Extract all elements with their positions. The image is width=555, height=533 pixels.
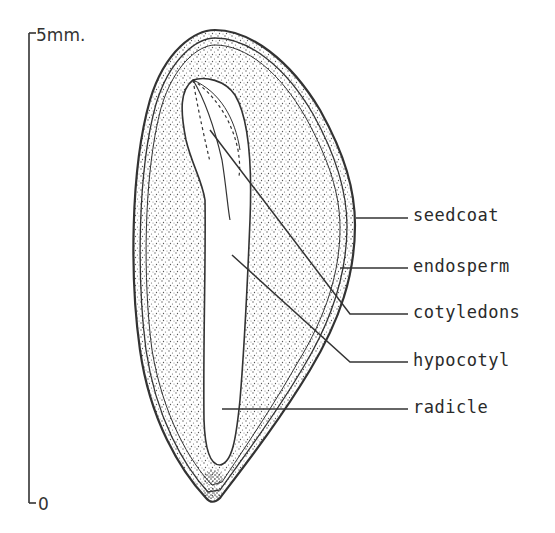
label-cotyledons: cotyledons [413, 304, 520, 321]
label-seedcoat: seedcoat [413, 207, 499, 224]
scale-top-label: 5mm. [36, 27, 85, 44]
scale-bottom-label: 0 [38, 496, 49, 513]
seed-diagram: 5mm. 0 seedcoat endosperm cotyledons hyp… [0, 0, 555, 533]
label-endosperm: endosperm [413, 258, 510, 275]
label-hypocotyl: hypocotyl [413, 352, 510, 369]
label-radicle: radicle [413, 399, 488, 416]
scale-bar [29, 33, 36, 503]
